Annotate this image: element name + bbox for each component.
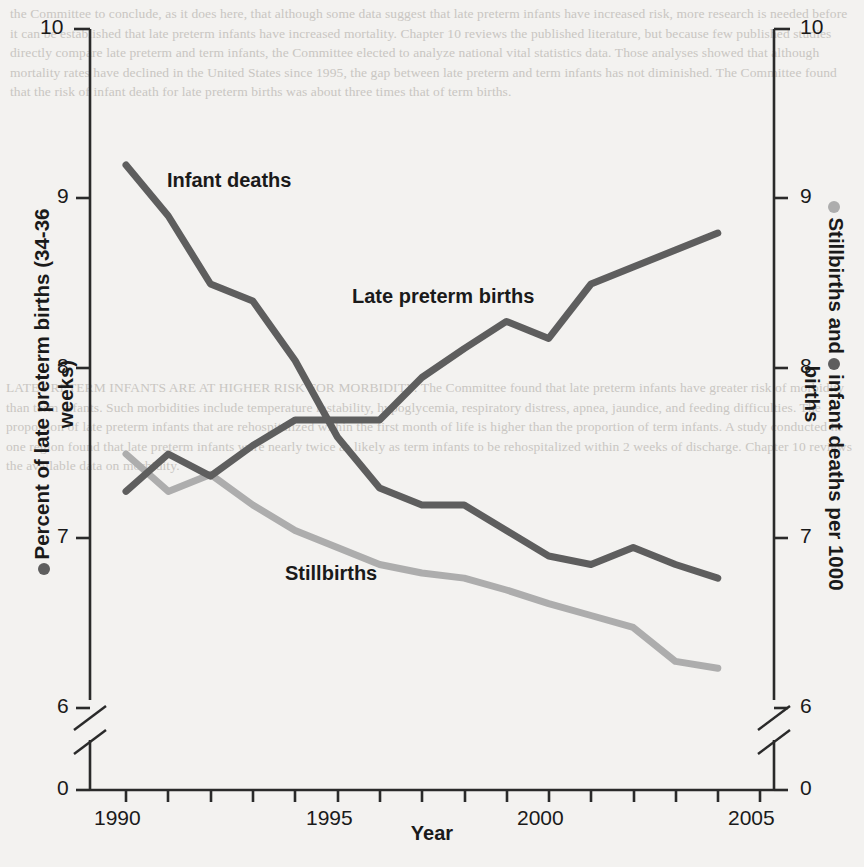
chart-figure: the Committee to conclude, as it does he… — [0, 0, 864, 867]
y-axis-right-title-text-2: infant deaths per 1000 births — [801, 366, 848, 591]
dark-series-dot-icon-2 — [828, 358, 840, 370]
series-line-infant-deaths — [126, 165, 718, 578]
line-chart-plot — [0, 0, 864, 867]
right-axis — [758, 29, 790, 790]
y-axis-left-title-text: Percent of late preterm births (34-36 we… — [30, 209, 77, 560]
x-axis-title: Year — [0, 822, 864, 845]
x-axis — [90, 790, 774, 802]
series-line-stillbirths — [126, 454, 718, 668]
series-line-late-preterm-births — [126, 233, 718, 491]
ytick-right-0: 0 — [800, 776, 812, 800]
ytick-left-0: 0 — [57, 776, 69, 800]
series-annotation-infant-deaths: Infant deaths — [167, 169, 291, 192]
y-axis-left-title: Percent of late preterm births (34-36 we… — [30, 184, 78, 604]
left-axis — [74, 29, 106, 790]
ytick-left-6: 6 — [57, 694, 69, 718]
series-layer — [126, 165, 718, 668]
ytick-left-10: 10 — [40, 15, 63, 39]
dark-series-dot-icon — [38, 563, 50, 575]
light-series-dot-icon — [828, 201, 840, 213]
series-annotation-late-preterm-births: Late preterm births — [352, 285, 534, 308]
series-annotation-stillbirths: Stillbirths — [285, 562, 377, 585]
y-axis-right-title-text-1: Stillbirths and — [825, 217, 848, 354]
ytick-right-10: 10 — [800, 15, 823, 39]
ytick-right-6: 6 — [800, 694, 812, 718]
y-axis-right-title: Stillbirths andinfant deaths per 1000 bi… — [800, 184, 848, 604]
